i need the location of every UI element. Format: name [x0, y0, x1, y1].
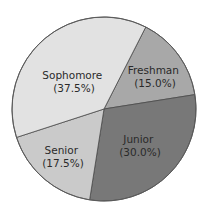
slice-pct-freshman: (15.0%): [134, 77, 176, 89]
slice-label-junior: Junior (30.0%): [119, 133, 161, 158]
slice-pct-senior: (17.5%): [42, 157, 84, 169]
slice-name-freshman: Freshman: [128, 64, 179, 76]
slice-name-senior: Senior: [45, 144, 79, 156]
slice-label-freshman: Freshman (15.0%): [128, 64, 183, 89]
slice-pct-junior: (30.0%): [119, 146, 161, 158]
pie-chart: Freshman (15.0%) Junior (30.0%) Senior (…: [0, 0, 208, 218]
slice-name-junior: Junior: [122, 133, 154, 145]
slice-label-senior: Senior (17.5%): [42, 144, 84, 169]
pie-slices: [12, 17, 196, 201]
slice-pct-sophomore: (37.5%): [53, 82, 95, 94]
slice-name-sophomore: Sophomore: [42, 69, 102, 81]
